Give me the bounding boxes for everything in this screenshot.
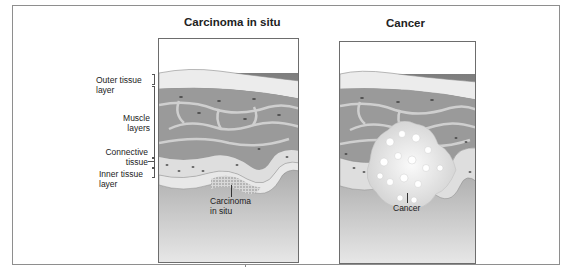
cancer-leader-line xyxy=(407,193,408,203)
tissue-cross-section-illustration xyxy=(159,39,299,263)
bracket-outer-tissue-layer xyxy=(152,74,155,85)
page-mark xyxy=(245,265,246,267)
tissue-cross-section-with-tumor-illustration xyxy=(340,42,476,264)
carcinoma-in-situ-illustration xyxy=(158,38,299,263)
bracket-inner-tissue-layer xyxy=(152,168,155,178)
bracket-connective-tissue xyxy=(152,158,155,168)
label-muscle-layers: Muscle layers xyxy=(100,114,150,133)
label-connective-tissue: Connective tissue xyxy=(90,148,148,167)
label-inner-tissue-layer: Inner tissue layer xyxy=(99,170,155,189)
cancer-callout: Cancer xyxy=(393,204,420,214)
bracket-muscle-layers xyxy=(152,86,155,158)
cancer-illustration xyxy=(339,41,476,264)
label-outer-tissue-layer: Outer tissue layer xyxy=(96,76,152,95)
carcinoma-in-situ-callout: Carcinoma in situ xyxy=(210,197,251,216)
panel-title-cancer: Cancer xyxy=(386,17,425,29)
panel-title-carcinoma-in-situ: Carcinoma in situ xyxy=(184,16,281,28)
